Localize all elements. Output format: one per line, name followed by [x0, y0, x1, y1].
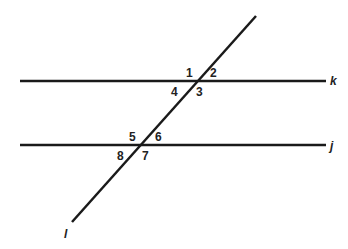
- angle-label-1: 1: [186, 66, 193, 80]
- parallel-lines-diagram: kjl12435687: [0, 0, 348, 249]
- line-l: [72, 16, 256, 222]
- angle-label-2: 2: [210, 66, 217, 80]
- angle-label-4: 4: [171, 85, 178, 99]
- angle-label-3: 3: [196, 85, 203, 99]
- angle-label-5: 5: [129, 130, 136, 144]
- angle-label-7: 7: [142, 149, 149, 163]
- angle-label-6: 6: [155, 130, 162, 144]
- angle-label-8: 8: [117, 149, 124, 163]
- line-label-j: j: [328, 139, 334, 153]
- line-label-l: l: [64, 227, 68, 241]
- line-label-k: k: [330, 74, 338, 88]
